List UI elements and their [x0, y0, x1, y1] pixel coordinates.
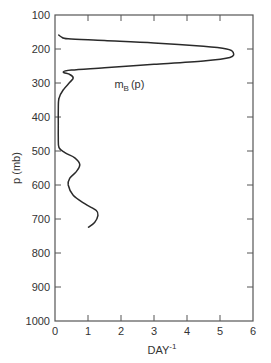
y-tick-label: 800: [32, 247, 50, 259]
chart: 0123456 1002003004005006007008009001000 …: [0, 0, 271, 363]
y-tick-label: 1000: [26, 315, 50, 327]
y-axis-title: p (mb): [10, 152, 22, 184]
y-tick-label: 500: [32, 145, 50, 157]
mb-profile-line: [58, 35, 233, 228]
y-tick-label: 900: [32, 281, 50, 293]
y-tick-label: 200: [32, 43, 50, 55]
y-tick-label: 400: [32, 111, 50, 123]
curve-annotation: mB(p): [114, 78, 144, 93]
x-axis-title: DAY-1: [148, 342, 177, 356]
y-axis-ticks: 1002003004005006007008009001000: [26, 9, 253, 327]
x-tick-label: 6: [250, 325, 256, 337]
y-tick-label: 300: [32, 77, 50, 89]
x-tick-label: 4: [184, 325, 190, 337]
plot-frame: [55, 15, 253, 321]
x-tick-label: 2: [118, 325, 124, 337]
x-tick-label: 0: [52, 325, 58, 337]
y-tick-label: 600: [32, 179, 50, 191]
y-tick-label: 100: [32, 9, 50, 21]
x-axis-ticks: 0123456: [52, 15, 256, 337]
x-tick-label: 1: [85, 325, 91, 337]
x-tick-label: 3: [151, 325, 157, 337]
x-tick-label: 5: [217, 325, 223, 337]
y-tick-label: 700: [32, 213, 50, 225]
